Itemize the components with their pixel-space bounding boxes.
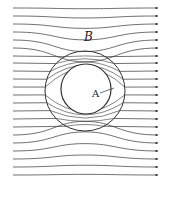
field-diagram: B A <box>0 0 172 198</box>
inner-circle <box>61 64 111 114</box>
region-label-a: A <box>91 88 100 99</box>
field-label-b: B <box>83 30 93 44</box>
